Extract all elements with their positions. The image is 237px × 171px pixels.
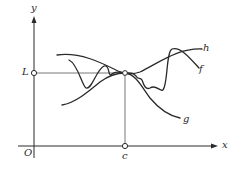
y-axis-arrow — [32, 16, 37, 23]
curve-h-label: h — [203, 43, 209, 53]
c-label: c — [122, 151, 128, 161]
limit-label: L — [22, 67, 29, 77]
y-axis-label: y — [31, 3, 37, 13]
markers — [31, 70, 127, 148]
curve-f-label: f — [199, 64, 203, 74]
curve-f — [69, 49, 199, 91]
curve-h — [57, 49, 202, 74]
origin-label: O — [24, 148, 32, 158]
curve-g-label: g — [183, 114, 189, 124]
limit-marker — [31, 70, 36, 75]
curve-g — [62, 73, 180, 118]
squeeze-point-marker — [123, 71, 128, 76]
guide-lines — [34, 73, 125, 146]
x-axis-label: x — [222, 140, 228, 150]
squeeze-theorem-diagram — [0, 0, 237, 171]
x-axis-arrow — [211, 144, 218, 149]
curves — [57, 49, 202, 118]
axes — [18, 16, 218, 158]
c-marker — [122, 143, 127, 148]
